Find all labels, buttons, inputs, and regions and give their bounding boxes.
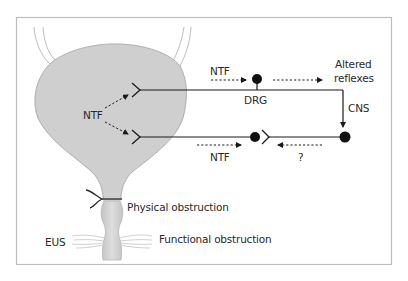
ganglion-node <box>250 132 260 142</box>
diagram-figure: NTF NTF DRG Altered reflexes CNS NTF ? P… <box>0 0 408 281</box>
urethra <box>101 201 123 260</box>
eus-label: EUS <box>45 236 65 248</box>
cns-node <box>340 132 351 143</box>
drg-node <box>252 74 262 84</box>
drg-label: DRG <box>244 94 267 106</box>
altered-reflexes-label-line1: Altered <box>335 58 372 70</box>
bladder-body <box>35 44 187 200</box>
cns-label: CNS <box>348 102 369 114</box>
physical-obstruction-label: Physical obstruction <box>127 201 229 213</box>
functional-obstruction-label: Functional obstruction <box>159 233 271 245</box>
ntf-upper-label: NTF <box>210 65 230 77</box>
altered-reflexes-label-line2: reflexes <box>334 72 374 84</box>
question-label: ? <box>298 151 303 163</box>
ntf-lower-label: NTF <box>210 151 230 163</box>
ntf-bladder-label: NTF <box>83 109 103 121</box>
